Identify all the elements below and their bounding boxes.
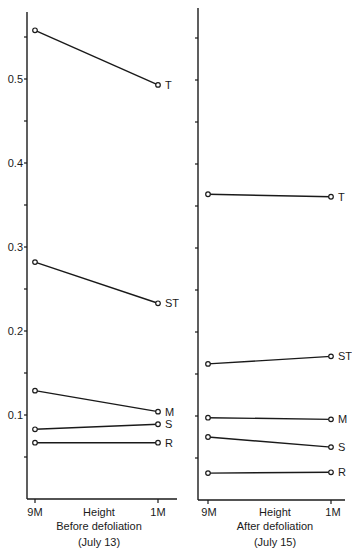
series-line	[208, 356, 331, 364]
data-point	[329, 354, 334, 359]
data-point	[206, 435, 211, 440]
x-label-1m: 1M	[325, 506, 340, 518]
panel-caption: Before defoliation	[56, 520, 142, 532]
series-st: ST	[206, 350, 352, 366]
series-group-before: TSTMSR	[33, 28, 180, 449]
data-point	[329, 417, 334, 422]
data-point	[329, 470, 334, 475]
series-r: R	[33, 437, 173, 449]
series-line	[35, 30, 158, 85]
y-tick-label: 0.1	[8, 409, 23, 421]
panel-date: (July 15)	[254, 536, 296, 548]
series-label: T	[165, 79, 172, 91]
series-t: T	[33, 28, 172, 91]
series-label: M	[165, 406, 174, 418]
series-line	[208, 472, 331, 473]
data-point	[156, 409, 161, 414]
y-tick-label: 0.3	[8, 241, 23, 253]
series-label: ST	[165, 297, 179, 309]
data-point	[206, 192, 211, 197]
series-line	[35, 424, 158, 429]
series-label: S	[165, 418, 172, 430]
series-s: S	[33, 418, 173, 431]
series-label: R	[338, 466, 346, 478]
series-line	[35, 391, 158, 412]
y-tick-label: 0.5	[8, 73, 23, 85]
x-axis-title: Height	[83, 506, 115, 518]
x-label-9m: 9M	[27, 506, 42, 518]
x-axis-title: Height	[259, 506, 291, 518]
x-label-9m: 9M	[201, 506, 216, 518]
series-label: R	[165, 437, 173, 449]
series-label: M	[338, 413, 347, 425]
data-point	[33, 427, 38, 432]
data-point	[33, 28, 38, 33]
data-point	[206, 415, 211, 420]
data-point	[156, 83, 161, 88]
panel-caption: After defoliation	[237, 520, 313, 532]
series-label: T	[338, 191, 345, 203]
data-point	[33, 388, 38, 393]
data-point	[156, 422, 161, 427]
series-label: ST	[338, 350, 352, 362]
data-point	[33, 440, 38, 445]
y-ticks-left: 0.10.20.30.40.5	[8, 37, 27, 457]
data-point	[329, 445, 334, 450]
panel-date: (July 13)	[78, 536, 120, 548]
figure: 0.10.20.30.40.5 TSTMSR 9M Height 1M Befo…	[0, 0, 352, 550]
data-point	[33, 260, 38, 265]
series-m: M	[206, 413, 347, 425]
x-label-1m: 1M	[150, 506, 165, 518]
series-line	[208, 437, 331, 447]
series-group-after: TSTMSR	[206, 191, 352, 479]
series-st: ST	[33, 260, 180, 309]
y-tick-label: 0.4	[8, 157, 23, 169]
panel-before: 0.10.20.30.40.5 TSTMSR 9M Height 1M Befo…	[8, 12, 180, 548]
data-point	[329, 194, 334, 199]
y-tick-label: 0.2	[8, 325, 23, 337]
series-label: S	[338, 441, 345, 453]
series-line	[208, 418, 331, 420]
series-line	[208, 194, 331, 197]
series-s: S	[206, 435, 346, 453]
series-line	[35, 262, 158, 303]
data-point	[156, 301, 161, 306]
series-t: T	[206, 191, 345, 203]
data-point	[206, 471, 211, 476]
series-r: R	[206, 466, 346, 478]
series-m: M	[33, 388, 174, 417]
panel-after: TSTMSR 9M Height 1M After defoliation (J…	[195, 8, 352, 548]
data-point	[206, 362, 211, 367]
data-point	[156, 440, 161, 445]
